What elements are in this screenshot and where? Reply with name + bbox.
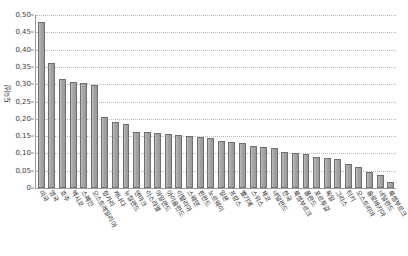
x-tick-mark bbox=[326, 186, 327, 189]
bar[interactable] bbox=[345, 164, 352, 188]
bar[interactable] bbox=[207, 138, 214, 188]
x-tick-mark bbox=[199, 186, 200, 189]
y-axis-title: 도덕성 bbox=[0, 0, 14, 188]
bar[interactable] bbox=[133, 132, 140, 188]
bar[interactable] bbox=[186, 136, 193, 188]
bar[interactable] bbox=[292, 153, 299, 188]
y-tick-mark bbox=[31, 188, 34, 189]
y-tick-label: 0,15 bbox=[15, 133, 31, 140]
bar[interactable] bbox=[144, 132, 151, 188]
y-tick-mark bbox=[31, 153, 34, 154]
y-tick-mark bbox=[31, 118, 34, 119]
bar[interactable] bbox=[366, 172, 373, 188]
bar[interactable] bbox=[48, 63, 55, 188]
y-tick-mark bbox=[31, 15, 34, 16]
y-tick-mark bbox=[31, 66, 34, 67]
y-axis-title-label: 도덕성 bbox=[2, 85, 12, 103]
bar[interactable] bbox=[281, 152, 288, 188]
y-tick-label: 0,40 bbox=[15, 46, 31, 53]
x-tick-mark bbox=[252, 186, 253, 189]
bar[interactable] bbox=[228, 142, 235, 188]
bar[interactable] bbox=[324, 158, 331, 188]
x-tick-mark bbox=[125, 186, 126, 189]
bar[interactable] bbox=[303, 154, 310, 188]
bar[interactable] bbox=[91, 85, 98, 188]
bar[interactable] bbox=[355, 167, 362, 188]
bar[interactable] bbox=[271, 148, 278, 188]
bar[interactable] bbox=[197, 137, 204, 188]
y-tick-label: 0,30 bbox=[15, 81, 31, 88]
bar[interactable] bbox=[154, 133, 161, 188]
bar[interactable] bbox=[123, 124, 130, 188]
y-tick-label: 0,50 bbox=[15, 12, 31, 19]
bar[interactable] bbox=[239, 143, 246, 188]
y-tick-label: 0,45 bbox=[15, 29, 31, 36]
x-tick-mark bbox=[379, 186, 380, 189]
bars bbox=[36, 15, 396, 188]
bar[interactable] bbox=[59, 79, 66, 188]
y-tick-label: 0,25 bbox=[15, 98, 31, 105]
bar[interactable] bbox=[101, 117, 108, 188]
bar[interactable] bbox=[112, 122, 119, 188]
x-tick-mark bbox=[305, 186, 306, 189]
bar[interactable] bbox=[165, 134, 172, 188]
x-axis-labels: 미국영국호주멕시코스페인오스트레일리아헝가리캐나다뉴질랜드덴마크이스라엘아일랜드… bbox=[35, 189, 395, 256]
bar[interactable] bbox=[260, 147, 267, 188]
bar[interactable] bbox=[70, 82, 77, 188]
y-tick-mark bbox=[31, 32, 34, 33]
bar[interactable] bbox=[218, 141, 225, 188]
x-tick-label: 영국 bbox=[48, 189, 60, 203]
plot-area bbox=[35, 15, 396, 189]
y-tick-label: 0,35 bbox=[15, 63, 31, 70]
y-tick-mark bbox=[31, 49, 34, 50]
bar[interactable] bbox=[38, 22, 45, 188]
y-tick-mark bbox=[31, 101, 34, 102]
y-tick-mark bbox=[31, 84, 34, 85]
x-tick-mark bbox=[146, 186, 147, 189]
bar[interactable] bbox=[250, 146, 257, 188]
y-tick-label: 0,10 bbox=[15, 150, 31, 157]
y-tick-label: 0,20 bbox=[15, 115, 31, 122]
y-tick-label: 0,05 bbox=[15, 167, 31, 174]
bar[interactable] bbox=[334, 159, 341, 188]
y-tick-mark bbox=[31, 136, 34, 137]
y-axis-ticks: 00,050,100,150,200,250,300,350,400,450,5… bbox=[13, 0, 34, 256]
bar[interactable] bbox=[313, 157, 320, 188]
y-tick-mark bbox=[31, 170, 34, 171]
bar[interactable] bbox=[175, 135, 182, 188]
bar[interactable] bbox=[80, 83, 87, 188]
x-tick-mark bbox=[72, 186, 73, 189]
x-tick-label: 호주 bbox=[58, 189, 70, 203]
